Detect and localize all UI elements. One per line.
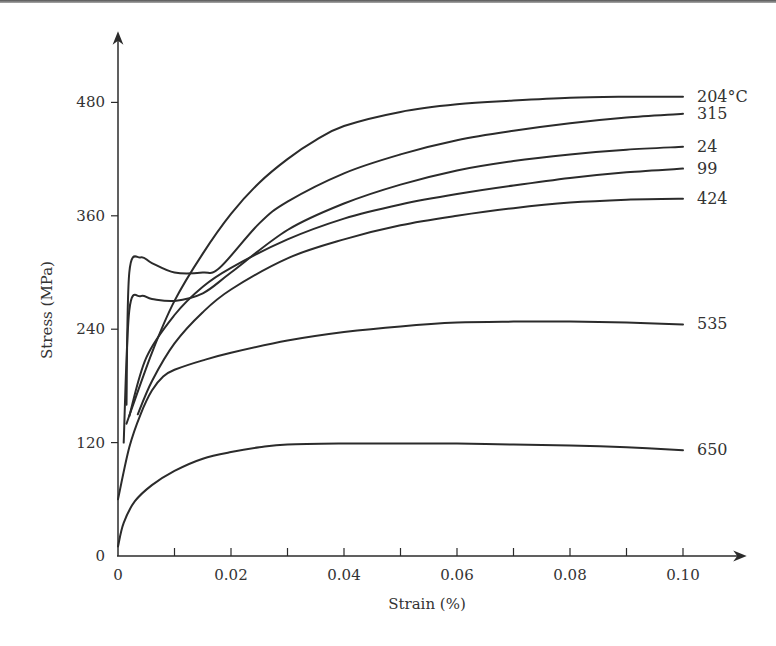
y-tick-label: 0	[95, 547, 105, 565]
series-label-315: 315	[697, 104, 728, 123]
y-tick-label: 360	[76, 207, 105, 225]
series-label-24: 24	[697, 137, 717, 156]
curve-99	[129, 169, 683, 417]
y-axis-ticks: 0120240360480	[76, 93, 118, 565]
y-tick-label: 240	[76, 320, 105, 338]
series-labels: 204°C3152499424535650	[697, 87, 748, 459]
series-label-424: 424	[697, 189, 728, 208]
series-label-650: 650	[697, 440, 728, 459]
x-axis-ticks: 00.020.040.060.080.10	[113, 548, 699, 584]
series-label-99: 99	[697, 159, 717, 178]
y-tick-label: 120	[76, 434, 105, 452]
x-tick-label: 0.08	[553, 566, 586, 584]
series-label-535: 535	[697, 314, 728, 333]
curve-424	[138, 199, 683, 414]
curve-204C	[127, 97, 684, 424]
stress-strain-chart: 00.020.040.060.080.10 0120240360480 204°…	[0, 0, 776, 646]
y-tick-label: 480	[76, 93, 105, 111]
x-tick-label: 0.10	[666, 566, 699, 584]
curve-24	[124, 147, 683, 443]
x-tick-label: 0.02	[214, 566, 247, 584]
x-tick-label: 0.04	[327, 566, 360, 584]
curve-315	[127, 114, 684, 405]
curve-650	[118, 443, 683, 546]
curve-535	[118, 322, 683, 500]
series-curves	[118, 97, 683, 547]
x-tick-label: 0.06	[440, 566, 473, 584]
x-tick-label: 0	[113, 566, 123, 584]
y-axis-title: Stress (MPa)	[38, 261, 56, 359]
x-axis-title: Strain (%)	[388, 595, 466, 613]
